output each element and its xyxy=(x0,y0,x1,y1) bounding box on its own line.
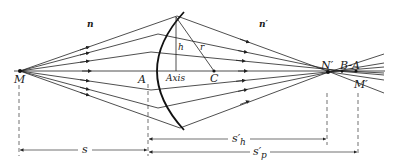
dimension-s: s xyxy=(20,143,147,156)
label-axis: Axis xyxy=(165,73,185,83)
incident-rays xyxy=(20,16,180,128)
dimension-s-h-prime: s′ h xyxy=(149,132,326,147)
label-h: h xyxy=(178,42,184,52)
label-b-a: B-A xyxy=(339,59,360,72)
label-c: C xyxy=(210,72,219,85)
dimension-s-p-prime: s′ p xyxy=(149,145,357,160)
label-m: M xyxy=(13,73,26,86)
refracted-rays xyxy=(151,16,345,128)
label-s: s xyxy=(82,143,88,156)
refraction-diagram: s s′ h s′ p M A Axis C h r n n′ N′ B-A M… xyxy=(0,0,397,167)
label-m-prime: M′ xyxy=(353,78,368,91)
label-n-prime: n′ xyxy=(259,19,269,29)
label-a: A xyxy=(137,73,146,86)
label-s-p-sub: p xyxy=(261,150,267,160)
label-n-prime-image: N′ xyxy=(320,59,334,72)
label-r: r xyxy=(200,42,205,52)
label-s-h-sub: h xyxy=(240,137,246,147)
label-n: n xyxy=(87,19,94,29)
